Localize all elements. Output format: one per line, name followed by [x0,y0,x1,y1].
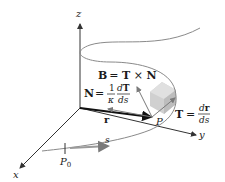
frenet-frame-diagram: z y x B= T × N N = 1 κ dT ds T = dr ds r… [0,0,225,182]
tangent-frac-num: dr [199,103,210,113]
arc-length-label: s [105,135,110,145]
osculating-plane [150,82,176,114]
x-axis-label: x [13,169,19,180]
normal-equals: = [95,87,104,100]
tangent-t-symbol: T [175,108,184,121]
normal-frac1-num: 1 [109,83,115,93]
arc-length-arrow [70,146,108,148]
position-vector-r [80,108,151,117]
z-axis-label: z [75,8,82,19]
point-p-label: P [155,116,163,127]
normal-frac2-num: dT [117,83,130,93]
binormal-label: B= T × N [98,69,157,82]
start-point-label: P0 [59,156,71,169]
tangent-equals: = [186,108,195,121]
normal-n-symbol: N [84,87,94,100]
normal-frac2-den: ds [118,95,129,105]
position-vector-label: r [104,114,110,125]
normal-label: N = 1 κ dT ds [84,83,130,105]
tangent-label: T = dr ds [175,103,210,125]
x-axis [20,108,80,168]
normal-frac1-den: κ [107,95,114,105]
y-axis-label: y [198,129,205,140]
binormal-vector-b [137,87,152,117]
tangent-frac-den: ds [199,115,210,125]
